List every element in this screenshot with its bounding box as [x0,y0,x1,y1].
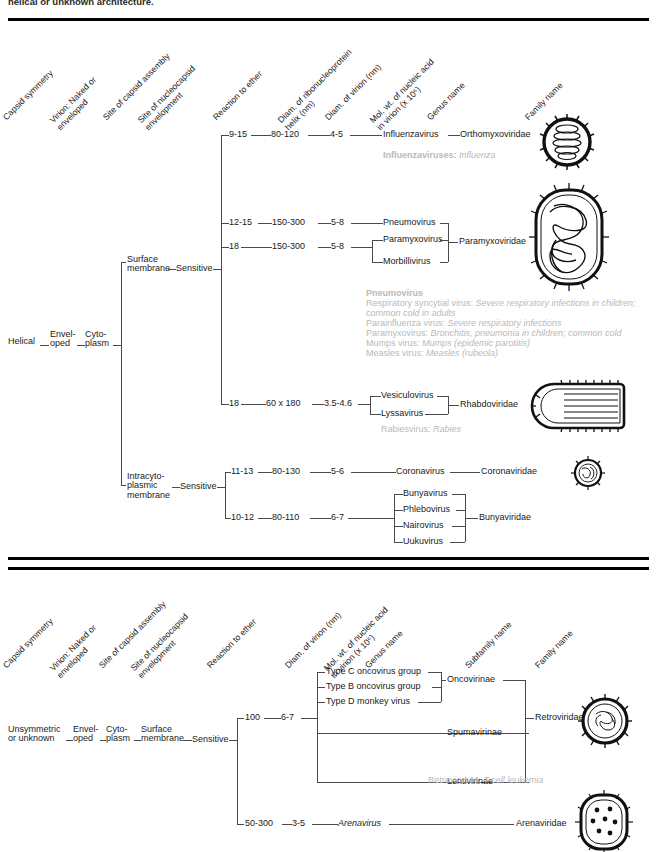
lead-bunyavirus-family [452,494,465,495]
bracket-oncovirinae [441,672,442,702]
lead-morbillivirus-family [440,262,448,263]
connector-helical-virion [40,345,49,346]
row-tick-arena [237,824,244,825]
cell-molwt-pneumovirus: 5-8 [331,217,344,227]
lead-helix-diam-corona [258,472,272,473]
note-pneumovirus-title: Pneumovirus [366,288,423,298]
arenavirus-virion-icon [572,790,636,852]
lead-bracket-rhabdoviridae [448,405,459,406]
lead-phlebovirus-family [456,510,465,511]
cell-genus-lyssavirus: Lyssavirus [381,408,423,418]
lead-helix-diam-pneumovirus [258,223,272,224]
note-pneumo-line-5: Measles virus: Measles (rubeola) [366,348,498,358]
note-pneumo-line-4: Mumps virus: Mumps (epidemic parotitis) [366,338,530,348]
row-tick-paramyxovirus [221,247,229,248]
lead-genus-family-arena [389,824,514,825]
cell-genus-arenavirus: Arenavirus [338,818,381,828]
tick-phlebovirus [394,510,403,511]
tick-intracytoplasmic-membrane [121,485,126,486]
spine-intracyto-rows [225,472,226,518]
lead-diam-molwt-influenza [308,135,330,136]
header-capsid-symmetry-bottom: Capsid symmetry [1,616,55,670]
tick-morbillivirus-genus [372,262,383,263]
rhabdovirus-virion-icon [528,380,628,432]
lead-spumavirinae-family [508,733,525,734]
lead-vesiculovirus-family [437,396,448,397]
lead-helix-diam-paramyxovirus [241,247,272,248]
lead-diam-molwt-retro [264,718,281,719]
lead-helix-diam-bunya [258,518,272,519]
note-pneumo-line-0: Respiratory syncytial virus: Severe resp… [366,298,636,308]
cell-diam-corona: 80-130 [272,466,300,476]
cell-molwt-retro: 6-7 [281,712,294,722]
lead-oncovirinae-family [503,680,525,681]
row-tick-pneumovirus [221,223,229,224]
header-subfamily-bottom: Subfamily name [463,619,514,670]
cell-molwt-arena: 3-5 [292,818,305,828]
cell-helix-pneumovirus: 12-15 [229,217,252,227]
note-rabies-agent: Rabiesvirus: [381,424,431,434]
tick-lyssavirus [370,414,381,415]
cell-molwt-influenza: 4-5 [330,129,343,139]
cell-molwt-paramyxovirus: 5-8 [331,241,344,251]
note-retro-disease: T-cell leukemia [484,775,544,785]
node-capsid-symmetry-helical: Helical [8,336,35,346]
cell-molwt-corona: 5-6 [331,466,344,476]
node-intracytoplasmic-membrane: Intracyto-plasmicmembrane [127,472,170,500]
lead-molwt-genusbracket-bunya [348,518,394,519]
node-surface-membrane-bottom: Surfacemembrane [141,725,184,744]
tick-bunyavirus [394,494,403,495]
lead-helix-diam-rhabdo [241,404,266,405]
row-tick-retro [237,718,244,719]
lead-molwt-genusbracket-retro [301,718,317,719]
paramyxovirus-virion-icon [528,182,610,292]
note-influenza: Influenzaviruses: Influenza [383,150,496,160]
top-rule [8,18,649,21]
note-pneumo-line-3: Paramyxovirus: Bronchitis, pneumonia in … [366,328,622,338]
tick-paramyxovirus-genus [372,240,383,241]
lead-molwt-genusbracket-paramyxovirus [351,247,372,248]
orthomyxovirus-virion-icon [538,112,596,172]
cell-diam-pneumovirus: 150-300 [272,217,305,227]
clipped-caption: helical or unknown architecture. [8,0,154,5]
note-pneumo-line-2: Parainfluenza virus: Severe respiratory … [366,318,562,328]
tick-uukuvirus [394,542,403,543]
node-surface-membrane: Surfacemembrane [127,255,170,274]
node-assembly-cytoplasm-bottom: Cyto-plasm [106,725,130,744]
cell-genus-type-c-oncovirus: Type C oncovirus group [326,666,421,676]
connector-intracyto-ether-out [217,487,225,488]
cell-genus-uukuvirus: Uukuvirus [403,536,443,546]
spine-surface-rows [221,135,222,404]
node-virion-enveloped-bottom: Envel-oped [73,725,99,744]
header-virion-top: Virion: Naked orenveloped [48,74,106,132]
cell-genus-morbillivirus: Morbillivirus [383,256,431,266]
node-ether-sensitive-intracyto: Sensitive [180,481,217,491]
bracket-envelopment-lower [121,345,122,485]
cell-diam-bunya: 80-110 [272,512,299,522]
note-retroviruses: Retroviruses: T-cell leukemia [428,775,543,785]
connector-surface-ether [168,269,176,270]
note-rabies: Rabiesvirus: Rabies [381,424,461,434]
lead-typec-onco [428,672,441,673]
lead-diam-molwt-corona [310,472,331,473]
lead-molwt-genus-arena [312,824,338,825]
lead-bracket-bunyaviridae [465,518,478,519]
lead-diam-molwt-rhabdo [312,404,324,405]
cell-family-rhabdoviridae: Rhabdoviridae [460,399,518,409]
connector-unsym-virion [66,740,73,741]
row-tick-rhabdo [221,404,229,405]
coronavirus-virion-icon [570,455,606,491]
cell-genus-vesiculovirus: Vesiculovirus [381,390,434,400]
connector-ether-out-bottom [229,740,237,741]
cell-genus-phlebovirus: Phlebovirus [403,504,450,514]
lead-molwt-genus-pneumovirus [351,223,383,224]
lead-diam-molwt-bunya [310,518,331,519]
middle-rule-upper [8,557,649,560]
node-ether-sensitive-bottom: Sensitive [192,734,229,744]
cell-genus-influenzavirus: Influenzavirus [383,129,439,139]
cell-subfamily-spumavirinae: Spumavirinae [447,727,502,737]
tick-surface-membrane [121,262,126,263]
note-influenza-disease: Influenza [459,150,496,160]
connector-assembly-envelopment-bottom [134,740,141,741]
lead-diam-molwt-arena [282,824,292,825]
